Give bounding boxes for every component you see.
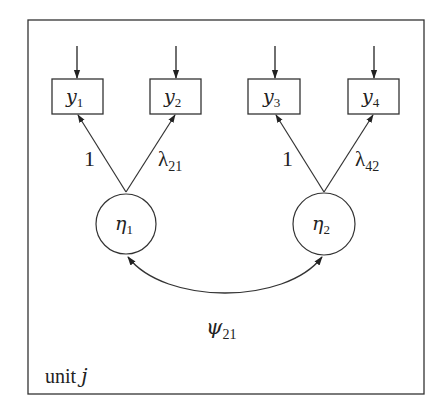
frame-label: unit j xyxy=(45,364,87,388)
error-arrows xyxy=(77,46,374,78)
loading-arrows xyxy=(78,115,373,192)
covariance-arrow xyxy=(128,257,322,293)
loading-label-y4: λ42 xyxy=(355,147,379,174)
loading-eta2-y4 xyxy=(324,115,373,192)
latent-eta2: η2 xyxy=(293,193,355,255)
observed-y2: y2 xyxy=(150,79,201,114)
observed-y3: y3 xyxy=(248,79,300,114)
loading-label-y3: 1 xyxy=(282,146,293,171)
latent-eta1: η1 xyxy=(96,194,156,254)
loading-label-y1: 1 xyxy=(84,146,95,171)
loading-label-y2: λ21 xyxy=(158,147,182,174)
covariance-label: ψ21 xyxy=(206,315,236,342)
path-diagram: y1 y2 y3 y4 1 λ21 1 λ42 η1 η2 ψ21 unit j xyxy=(0,0,439,413)
observed-y4: y4 xyxy=(348,79,399,114)
observed-y1: y1 xyxy=(52,79,103,114)
